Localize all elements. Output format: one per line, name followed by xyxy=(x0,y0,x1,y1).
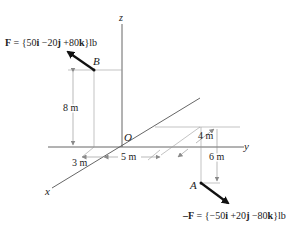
force-neg-f-lhs: –F xyxy=(182,210,194,221)
dim-5m-label: 5 m xyxy=(121,151,137,162)
force-f-label: F = {50i −20j +80k}lb xyxy=(5,37,97,48)
force-f-unit: }lb xyxy=(85,37,98,48)
dim-3m-label: 3 m xyxy=(72,157,88,168)
force-neg-f-label: –F = {−50i +20j −80k}lb xyxy=(182,210,286,221)
force-neg-f-eq: = {−50 xyxy=(194,210,225,221)
dim-4m-line-lower xyxy=(178,149,188,157)
dim-4m-label: 4 m xyxy=(198,130,214,141)
origin-label: O xyxy=(124,131,132,143)
force-f-eq: = {50 xyxy=(11,37,36,48)
b-offset-guide xyxy=(148,150,160,160)
dim-6m-label: 6 m xyxy=(209,151,225,162)
a-diagonal-guide xyxy=(161,127,200,155)
force-neg-f-mid1: +20 xyxy=(228,210,246,221)
point-b-label: B xyxy=(93,55,100,67)
force-f-arrow xyxy=(68,52,94,70)
x-axis-label: x xyxy=(44,185,50,197)
force-neg-f-mid2: −80 xyxy=(249,210,267,221)
point-a-label: A xyxy=(189,179,197,191)
z-axis-label: z xyxy=(118,12,123,23)
force-couple-diagram: z y x O 8 m 3 m 5 m 4 m 6 m B A F = {50i… xyxy=(0,0,297,238)
force-f-mid1: −20 xyxy=(39,37,57,48)
force-neg-f-arrow xyxy=(201,183,228,203)
force-neg-f-unit: }lb xyxy=(273,210,286,221)
y-axis-label: y xyxy=(243,140,249,152)
dim-8m-label: 8 m xyxy=(63,102,79,113)
b-footprint-guide xyxy=(82,147,94,157)
force-f-mid2: +80 xyxy=(61,37,79,48)
